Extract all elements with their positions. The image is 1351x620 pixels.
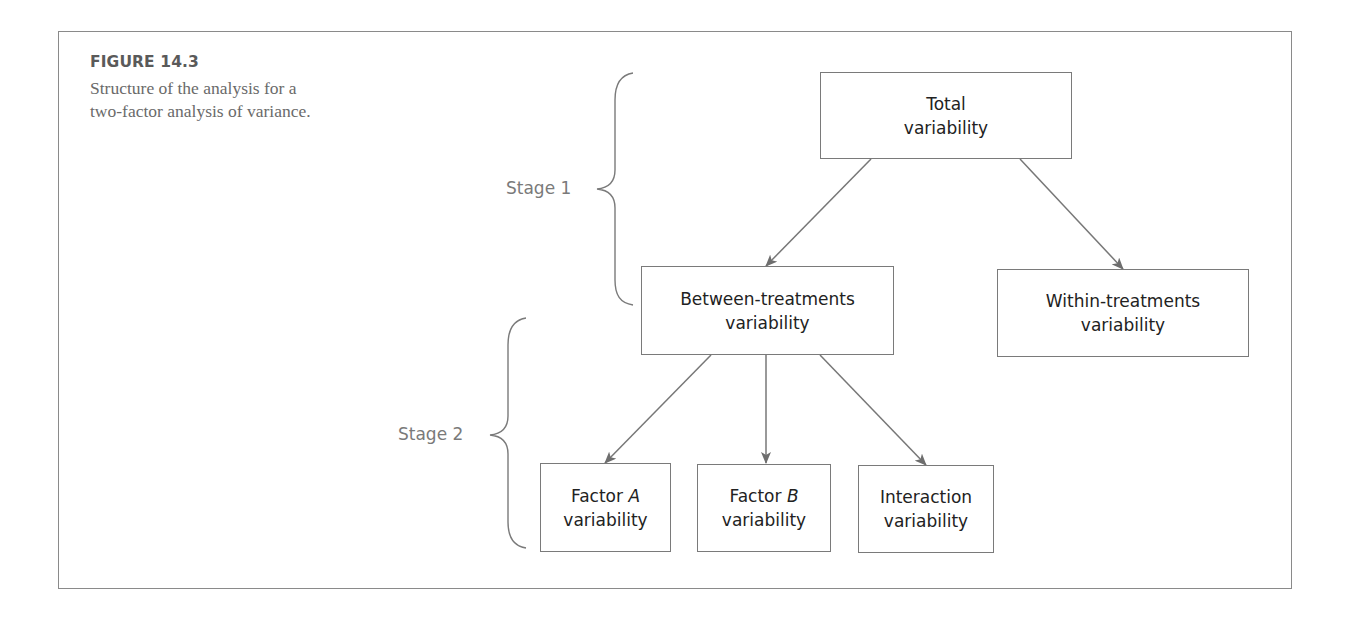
arrow-total-to-between	[766, 159, 871, 266]
arrow-total-to-within	[1020, 159, 1123, 269]
node-line: variability	[1081, 313, 1165, 337]
node-line: variability	[904, 116, 988, 140]
arrow-between-to-factor-a	[605, 355, 711, 463]
node-line: Factor A	[571, 484, 640, 508]
node-line: variability	[563, 508, 647, 532]
node-prefix: Factor	[729, 486, 786, 506]
node-line: variability	[884, 509, 968, 533]
node-line: Interaction	[880, 485, 972, 509]
node-line: Total	[926, 92, 966, 116]
node-between-treatments: Between-treatments variability	[641, 266, 894, 355]
factor-variable: A	[628, 486, 640, 506]
stage-1-brace	[597, 73, 633, 305]
node-interaction: Interaction variability	[858, 465, 994, 553]
stage-2-label: Stage 2	[398, 424, 463, 444]
arrow-between-to-interaction	[820, 355, 926, 465]
node-factor-a: Factor A variability	[540, 463, 671, 552]
stage-1-label: Stage 1	[506, 178, 571, 198]
node-total-variability: Total variability	[820, 72, 1072, 159]
node-within-treatments: Within-treatments variability	[997, 269, 1249, 357]
node-factor-b: Factor B variability	[697, 464, 831, 552]
node-line: variability	[725, 311, 809, 335]
node-line: variability	[722, 508, 806, 532]
node-prefix: Factor	[571, 486, 628, 506]
factor-variable: B	[787, 486, 799, 506]
node-line: Between-treatments	[680, 287, 855, 311]
node-line: Factor B	[729, 484, 798, 508]
stage-2-brace	[490, 318, 526, 548]
node-line: Within-treatments	[1046, 289, 1200, 313]
